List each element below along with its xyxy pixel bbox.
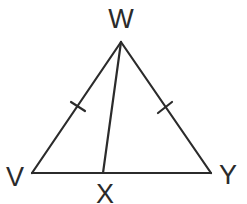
vertex-label-y: Y [219,160,237,190]
vertex-label-v: V [6,162,24,192]
vertex-label-w: W [108,4,134,34]
segment-wv [32,42,121,173]
segment-wx [103,42,121,173]
vertex-label-x: X [96,179,114,204]
triangle-diagram: W V Y X [0,0,247,204]
